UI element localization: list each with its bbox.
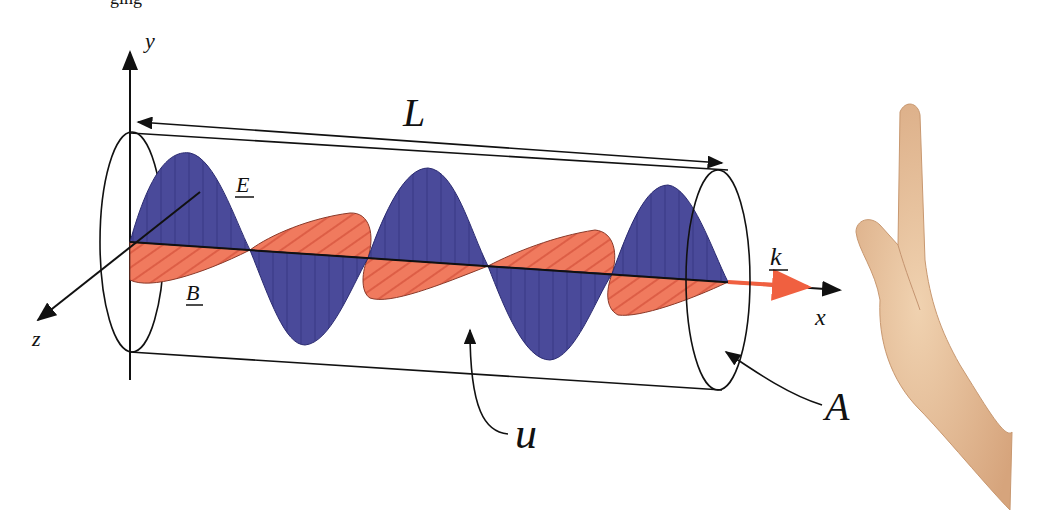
area-label: A: [822, 384, 850, 429]
length-arrow: [138, 122, 722, 163]
wave-vector-arrow: [728, 282, 808, 287]
magnetic-field-label: B: [186, 280, 199, 305]
z-axis-label: z: [31, 326, 41, 351]
cylinder-top-edge: [130, 133, 728, 170]
right-hand-icon: [856, 104, 1012, 510]
length-label: L: [402, 90, 425, 135]
em-wave-diagram: ging y L x k z E B u A: [0, 0, 1046, 530]
energy-density-pointer: [470, 330, 508, 434]
y-axis-label: y: [143, 28, 155, 53]
electric-field-label: E: [235, 172, 250, 197]
top-fragment-text: ging: [110, 0, 142, 8]
x-axis-label: x: [814, 304, 826, 330]
cylinder-bottom-edge: [130, 352, 722, 390]
energy-density-label: u: [515, 409, 537, 458]
wave-vector-label: k: [770, 242, 782, 271]
